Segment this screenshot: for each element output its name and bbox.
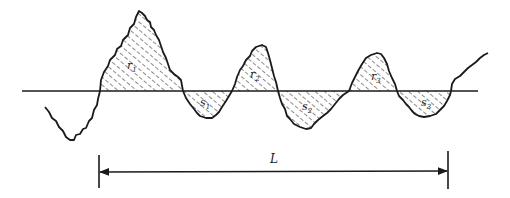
peak-areas xyxy=(100,11,397,91)
dimension-arrow-line xyxy=(100,171,447,172)
length-label-L: L xyxy=(269,152,278,166)
length-dimension: L xyxy=(99,151,448,189)
peak-area-r1 xyxy=(100,11,183,91)
roughness-profile-diagram: r1 r2 r3 s1 s2 s3 L xyxy=(0,0,510,198)
